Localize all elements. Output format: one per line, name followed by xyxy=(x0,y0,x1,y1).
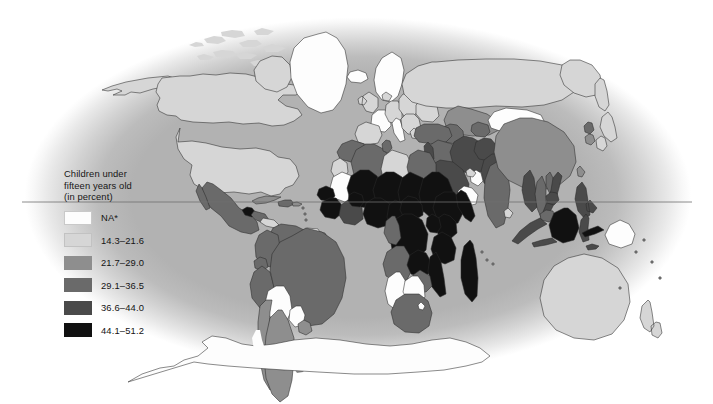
map-figure: Children under fifteen years old (in per… xyxy=(0,0,713,404)
country-hispaniola xyxy=(278,200,294,207)
country-antarctica xyxy=(128,336,490,382)
country-philippines xyxy=(575,182,597,219)
country-indonesia-sulawesi xyxy=(579,214,589,242)
legend-title: Children under fifteen years old (in per… xyxy=(64,168,204,203)
country-turkey xyxy=(414,124,452,144)
legend-item-bin4[interactable]: 36.6–44.0 xyxy=(64,300,204,315)
country-russia xyxy=(402,59,580,108)
country-south-korea xyxy=(585,134,595,145)
legend-swatch-bin4 xyxy=(64,301,92,315)
legend-swatch-bin1 xyxy=(64,233,92,247)
legend-label-bin2: 21.7–29.0 xyxy=(101,257,144,268)
country-japan xyxy=(596,112,617,151)
legend-swatch-bin3 xyxy=(64,278,92,292)
country-new-zealand xyxy=(640,300,662,338)
country-indonesia-java xyxy=(532,238,557,247)
country-iceland xyxy=(347,70,368,83)
country-south-africa xyxy=(391,294,432,333)
region-south-east-asia xyxy=(484,112,635,250)
lesser-antilles xyxy=(301,206,308,222)
country-cambodia xyxy=(546,192,559,205)
region-south-america xyxy=(250,224,346,402)
country-madagascar xyxy=(461,240,478,302)
legend-label-na: NA* xyxy=(101,212,118,223)
country-greenland xyxy=(290,32,348,113)
country-timor xyxy=(586,244,599,250)
region-oceania xyxy=(540,238,662,340)
region-antarctica xyxy=(128,330,490,382)
country-kamchatka xyxy=(595,78,609,111)
country-cuba xyxy=(252,196,281,204)
country-spain-portugal xyxy=(355,122,382,145)
country-taiwan xyxy=(577,166,585,177)
legend-label-bin3: 29.1–36.5 xyxy=(101,280,144,291)
country-north-korea xyxy=(584,122,594,134)
legend-item-bin2[interactable]: 21.7–29.0 xyxy=(64,255,204,270)
legend-label-bin1: 14.3–21.6 xyxy=(101,235,144,246)
legend-item-na[interactable]: NA* xyxy=(64,210,204,225)
legend-item-bin1[interactable]: 14.3–21.6 xyxy=(64,233,204,248)
legend-swatch-bin2 xyxy=(64,256,92,270)
country-australia xyxy=(540,254,630,340)
country-guinea-sierraleone-liberia xyxy=(320,198,342,219)
legend-label-bin5: 44.1–51.2 xyxy=(101,325,144,336)
country-papua-new-guinea xyxy=(605,220,635,248)
legend-swatch-na xyxy=(64,211,92,225)
legend-item-bin5[interactable]: 44.1–51.2 xyxy=(64,323,204,338)
country-puerto-rico xyxy=(292,202,302,206)
indian-ocean-islands xyxy=(480,250,495,266)
country-british-isles xyxy=(358,92,378,113)
legend-label-bin4: 36.6–44.0 xyxy=(101,302,144,313)
legend-item-bin3[interactable]: 29.1–36.5 xyxy=(64,278,204,293)
map-legend: Children under fifteen years old (in per… xyxy=(64,168,204,338)
legend-swatch-bin5 xyxy=(64,323,92,337)
